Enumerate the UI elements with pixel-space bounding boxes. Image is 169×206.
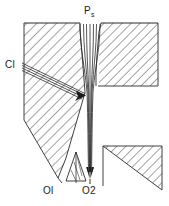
upper-right-hatched-block <box>96 23 158 86</box>
outlet-arrowheads <box>86 167 94 179</box>
schematic-diagram <box>0 0 169 206</box>
label-o2: O2 <box>82 186 96 196</box>
label-ps: Ps <box>84 6 95 18</box>
label-ps-base: P <box>84 5 91 16</box>
figure-canvas: Ps Cl Ol O2 <box>0 0 169 206</box>
label-ps-subscript: s <box>91 11 95 18</box>
lower-left-taper-edge <box>58 178 62 183</box>
label-o1: Ol <box>43 186 53 196</box>
label-cl: Cl <box>5 60 15 70</box>
lower-right-hatched-triangle <box>103 146 162 190</box>
